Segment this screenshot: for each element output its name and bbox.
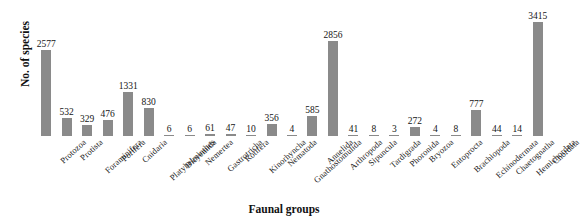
bar-group: 4 (282, 8, 302, 136)
bar-value-label: 2856 (323, 30, 342, 40)
bar-group: 2577 (36, 8, 56, 136)
bar-value-label: 532 (60, 107, 74, 117)
bar-group: 44 (487, 8, 507, 136)
bar-value-label: 777 (469, 99, 483, 109)
bar-value-label: 585 (305, 105, 319, 115)
bar-value-label: 356 (264, 113, 278, 123)
bar-value-label: 1331 (119, 81, 138, 91)
bar-value-label: 8 (372, 124, 377, 134)
bar (471, 110, 481, 136)
bar-group: 272 (405, 8, 425, 136)
bar-value-label: 3 (392, 124, 397, 134)
bar-group: 329 (77, 8, 97, 136)
bar (123, 92, 133, 136)
bar (144, 108, 154, 136)
bar-group: 585 (302, 8, 322, 136)
bar (328, 41, 338, 136)
bar-group: 14 (507, 8, 527, 136)
x-axis-tick-labels: ProtozoaProtistaForaminiferaPoriferaCnid… (36, 137, 548, 199)
bar-value-label: 6 (187, 124, 192, 134)
bar-group: 532 (56, 8, 76, 136)
bar-group: 10 (241, 8, 261, 136)
bar-value-label: 10 (246, 124, 256, 134)
bar-group: 476 (97, 8, 117, 136)
bar-value-label: 272 (408, 116, 422, 126)
bar-value-label: 47 (226, 123, 236, 133)
plot-area: 2577532329476133183066614710356458528564… (36, 8, 548, 136)
bar-value-label: 3415 (528, 11, 547, 21)
bar-group: 6 (159, 8, 179, 136)
bar-group: 777 (466, 8, 486, 136)
bar-group: 6 (179, 8, 199, 136)
bar-group: 3415 (528, 8, 548, 136)
bar (267, 124, 277, 136)
bar (82, 125, 92, 136)
bar-value-label: 2577 (37, 39, 56, 49)
bar-value-label: 14 (513, 124, 523, 134)
bar (410, 127, 420, 136)
bar-value-label: 830 (142, 97, 156, 107)
bar-value-label: 44 (492, 124, 502, 134)
bar-value-label: 329 (80, 114, 94, 124)
bar-value-label: 4 (290, 124, 295, 134)
bar-group: 4 (425, 8, 445, 136)
bar (103, 120, 113, 136)
bar-group: 61 (200, 8, 220, 136)
bar-group: 8 (446, 8, 466, 136)
bar (41, 50, 51, 136)
bar-group: 2856 (323, 8, 343, 136)
bar-value-label: 4 (433, 124, 438, 134)
y-axis-title: No. of species (19, 9, 31, 99)
bar-group: 356 (261, 8, 281, 136)
bar-value-label: 476 (101, 109, 115, 119)
bar (307, 116, 317, 136)
bar-group: 8 (364, 8, 384, 136)
x-axis-title: Faunal groups (0, 203, 548, 215)
bar-group: 3 (384, 8, 404, 136)
bar-value-label: 8 (453, 124, 458, 134)
bar-value-label: 41 (349, 124, 359, 134)
bar (62, 118, 72, 136)
bar-group: 41 (343, 8, 363, 136)
bar (533, 22, 543, 136)
bar-group: 47 (220, 8, 240, 136)
bar-value-label: 6 (167, 124, 172, 134)
bar-group: 1331 (118, 8, 138, 136)
bar-value-label: 61 (205, 123, 215, 133)
bar-group: 830 (138, 8, 158, 136)
